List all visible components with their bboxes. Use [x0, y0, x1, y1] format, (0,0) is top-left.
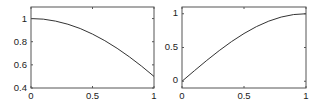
right-plot: 0 0.5 1 0 0.5 1 — [165, 7, 309, 101]
chart-canvas: 0.4 0.6 0.8 1 0 0.5 1 0 0.5 1 0 0.5 1 — [0, 0, 325, 107]
left-axes-box — [31, 7, 154, 88]
left-y-tick-1: 1 — [22, 13, 27, 24]
left-x-tick-1: 1 — [151, 90, 156, 101]
left-y-tick-labels: 0.4 0.6 0.8 1 — [14, 13, 27, 93]
right-x-tick-1: 1 — [303, 90, 308, 101]
left-x-tick-labels: 0 0.5 1 — [28, 90, 156, 101]
right-axes-box — [182, 7, 306, 88]
right-x-tick-0.5: 0.5 — [237, 90, 250, 101]
left-x-tick-0: 0 — [28, 90, 33, 101]
left-y-tick-0.8: 0.8 — [14, 36, 27, 47]
left-x-tick-0.5: 0.5 — [86, 90, 99, 101]
right-y-tick-0: 0 — [173, 74, 178, 85]
left-plot: 0.4 0.6 0.8 1 0 0.5 1 — [14, 7, 157, 101]
right-y-tick-0.5: 0.5 — [165, 41, 178, 52]
right-y-tick-labels: 0 0.5 1 — [165, 7, 178, 86]
right-y-tick-1: 1 — [173, 7, 178, 18]
right-x-tick-0: 0 — [179, 90, 184, 101]
right-x-tick-labels: 0 0.5 1 — [179, 90, 308, 101]
left-y-tick-0.4: 0.4 — [14, 82, 27, 93]
left-y-tick-0.6: 0.6 — [14, 59, 27, 70]
